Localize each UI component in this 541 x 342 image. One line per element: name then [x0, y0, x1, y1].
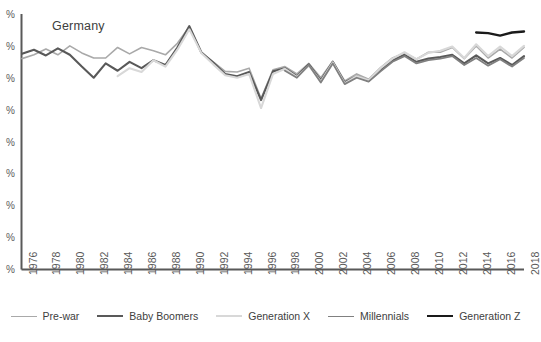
x-axis-tick-label: 1984 [122, 252, 134, 275]
series-line-pre-war [22, 27, 524, 99]
x-axis-tick-label: 2006 [385, 252, 397, 275]
y-axis-tick-text: % [6, 264, 15, 275]
x-axis-tick-label: 1998 [289, 252, 301, 275]
x-axis-tick-label: 1992 [218, 252, 230, 275]
legend-item-label: Millennials [360, 310, 409, 322]
chart-legend: Pre-warBaby BoomersGeneration XMillennia… [0, 310, 531, 322]
legend-swatch-icon [427, 315, 453, 317]
x-axis-tick-label: 1980 [74, 252, 86, 275]
chart-series-layer [22, 26, 524, 108]
x-axis-tick-label: 2008 [409, 252, 421, 275]
y-axis-tick-text: % [6, 9, 15, 20]
legend-item-pre-war[interactable]: Pre-war [11, 310, 80, 322]
chart-title: Germany [52, 19, 105, 33]
x-axis-tick-label: 2016 [505, 252, 517, 275]
x-axis-tick-label: 2004 [361, 252, 373, 275]
y-axis-tick-label: % [6, 168, 15, 179]
y-axis-tick-text: % [6, 136, 15, 147]
y-axis-tick-text: % [6, 168, 15, 179]
legend-item-label: Pre-war [43, 310, 80, 322]
x-axis-tick-label: 2012 [457, 252, 469, 275]
y-axis-tick-text: % [6, 104, 15, 115]
legend-item-label: Baby Boomers [129, 310, 198, 322]
y-axis-tick-label: % [6, 200, 15, 211]
series-line-generation-z [476, 32, 524, 36]
series-line-baby-boomers [22, 26, 524, 100]
y-axis-tick-label: % [6, 72, 15, 83]
x-axis-tick-label: 1988 [170, 252, 182, 275]
legend-item-millennials[interactable]: Millennials [328, 310, 409, 322]
x-axis-tick-label: 2002 [337, 252, 349, 275]
x-axis-tick-label: 1996 [266, 252, 278, 275]
x-axis-tick-label: 1986 [146, 252, 158, 275]
legend-item-label: Generation Z [459, 310, 520, 322]
x-axis-tick-label: 1982 [98, 252, 110, 275]
legend-item-generation-x[interactable]: Generation X [216, 310, 310, 322]
y-axis-tick-label: % [6, 136, 15, 147]
y-axis-tick-label: % [6, 264, 15, 275]
x-axis-tick-label: 1994 [242, 252, 254, 275]
y-axis-tick-text: % [6, 232, 15, 243]
x-axis-tick-label: 1976 [27, 252, 39, 275]
y-axis-tick-text: % [6, 72, 15, 83]
x-axis-tick-label: 1990 [194, 252, 206, 275]
legend-swatch-icon [328, 316, 354, 317]
y-axis-tick-text: % [6, 200, 15, 211]
legend-swatch-icon [216, 315, 242, 317]
legend-item-baby-boomers[interactable]: Baby Boomers [97, 310, 198, 322]
legend-item-generation-z[interactable]: Generation Z [427, 310, 520, 322]
x-axis-tick-label: 2014 [481, 252, 493, 275]
y-axis-tick-label: % [6, 104, 15, 115]
x-axis-tick-label: 2000 [313, 252, 325, 275]
legend-item-label: Generation X [248, 310, 310, 322]
chart-axes [22, 14, 525, 270]
x-axis-tick-label: 2018 [529, 252, 541, 275]
x-axis-tick-label: 1978 [50, 252, 62, 275]
y-axis-tick-label: % [6, 232, 15, 243]
legend-swatch-icon [11, 316, 37, 317]
y-axis-tick-text: % [6, 40, 15, 51]
y-axis-tick-label: % [6, 40, 15, 51]
y-axis-tick-label: % [6, 9, 15, 20]
legend-swatch-icon [97, 315, 123, 317]
x-axis-tick-label: 2010 [433, 252, 445, 275]
